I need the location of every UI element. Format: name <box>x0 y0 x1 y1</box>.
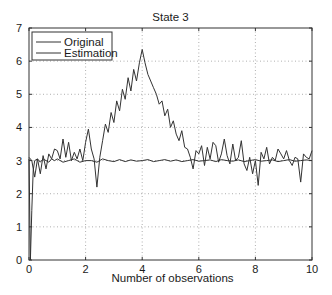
y-tick-label: 3 <box>16 155 22 167</box>
x-tick-label: 10 <box>306 263 318 275</box>
x-tick-label: 8 <box>252 263 258 275</box>
chart-container: 024681001234567 State 3 Number of observ… <box>0 0 332 295</box>
legend: Original Estimation <box>32 32 118 60</box>
x-axis-label: Number of observations <box>111 272 233 284</box>
data-series <box>29 50 312 261</box>
series-original-line <box>29 50 312 188</box>
y-tick-label: 4 <box>16 121 22 133</box>
series-estimation-line <box>29 159 312 260</box>
chart-title: State 3 <box>152 11 188 23</box>
x-tick-label: 0 <box>26 263 32 275</box>
legend-label-estimation: Estimation <box>64 47 118 59</box>
y-tick-label: 1 <box>16 221 22 233</box>
y-tick-label: 7 <box>16 22 22 34</box>
grid-lines <box>29 28 312 260</box>
y-tick-label: 5 <box>16 88 22 100</box>
y-tick-label: 6 <box>16 55 22 67</box>
y-tick-label: 0 <box>16 254 22 266</box>
y-tick-label: 2 <box>16 188 22 200</box>
x-tick-label: 2 <box>83 263 89 275</box>
plot-frame <box>29 28 312 260</box>
line-chart: 024681001234567 State 3 Number of observ… <box>0 0 332 295</box>
